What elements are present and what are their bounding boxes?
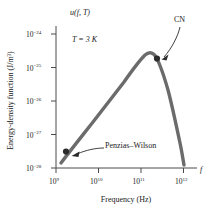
y-axis-ticks (51, 34, 56, 168)
y-tick-label: 10−28 (26, 164, 42, 174)
penzias-wilson-arrowhead (72, 152, 80, 158)
x-axis-ticks (56, 168, 184, 173)
chart-top-label: u(f, T) (70, 8, 90, 17)
blackbody-spectrum-chart: Energy-density function (J/m³) u(f, T) 1… (0, 0, 213, 219)
x-axis-symbol: f (200, 165, 204, 174)
cn-data-point (154, 55, 160, 61)
y-tick-label: 10−25 (26, 63, 42, 73)
y-tick-labels: 10−24 10−25 10−26 10−27 10−28 (26, 30, 42, 174)
cn-annotation-label: CN (174, 15, 185, 24)
y-axis-label: Energy-density function (J/m³) (6, 51, 15, 150)
y-tick-label: 10−26 (26, 97, 42, 107)
temperature-annotation: T = 3 K (72, 35, 98, 44)
x-axis-label: Frequency (Hz) (101, 195, 152, 204)
x-tick-label: 109 (49, 177, 60, 187)
y-tick-label: 10−24 (26, 30, 42, 40)
x-tick-label: 1011 (133, 177, 146, 187)
x-tick-labels: 109 1010 1011 1012 (49, 177, 188, 187)
penzias-wilson-annotation-label: Penzias–Wilson (105, 141, 156, 150)
y-tick-label: 10−27 (26, 130, 42, 140)
cn-arrow (164, 27, 180, 57)
chart-svg: Energy-density function (J/m³) u(f, T) 1… (0, 0, 213, 219)
x-tick-label: 1010 (90, 177, 103, 187)
penzias-wilson-arrow (77, 148, 104, 154)
penzias-wilson-data-point (63, 148, 69, 154)
x-tick-label: 1012 (175, 177, 188, 187)
